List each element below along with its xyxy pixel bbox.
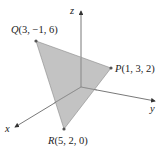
z-axis-label: z — [70, 6, 74, 17]
x-axis-label: x — [5, 124, 10, 135]
point-r-label: R(5, 2, 0) — [48, 136, 88, 147]
point-q-label: Q(3, −1, 6) — [11, 25, 58, 36]
y-axis-label: y — [150, 104, 155, 115]
point-q — [34, 39, 37, 42]
point-r — [62, 127, 65, 130]
point-p-label: P(1, 3, 2) — [115, 64, 155, 75]
triangle-pqr — [36, 41, 111, 129]
point-p — [109, 66, 112, 69]
